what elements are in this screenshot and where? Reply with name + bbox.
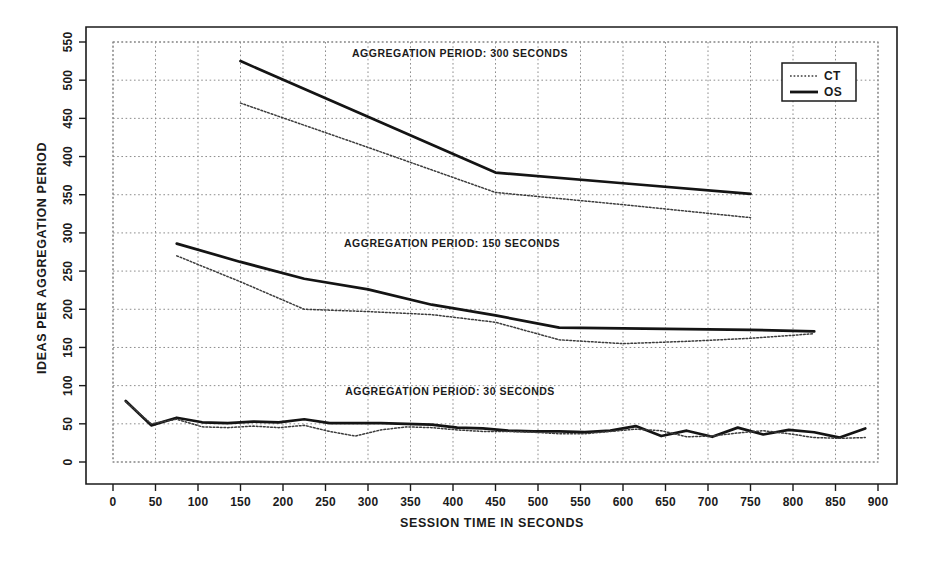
y-tick-label: 0 bbox=[61, 458, 75, 465]
y-tick-label: 200 bbox=[61, 299, 75, 320]
x-tick-label: 200 bbox=[273, 495, 294, 509]
x-tick-label: 250 bbox=[315, 495, 336, 509]
y-tick-label: 400 bbox=[61, 146, 75, 167]
x-tick-label: 500 bbox=[528, 495, 549, 509]
x-tick-labels: 0501001502002503003504004505005506006507… bbox=[110, 495, 889, 509]
x-tick-label: 0 bbox=[110, 495, 117, 509]
annotation-period-30: AGGREGATION PERIOD: 30 SECONDS bbox=[345, 385, 555, 397]
x-tick-label: 600 bbox=[613, 495, 634, 509]
y-tick-label: 350 bbox=[61, 184, 75, 205]
chart-legend[interactable]: CT OS bbox=[782, 63, 856, 101]
x-tick-label: 750 bbox=[740, 495, 761, 509]
x-tick-label: 850 bbox=[825, 495, 846, 509]
grid-lines bbox=[113, 42, 878, 462]
annotation-period-150: AGGREGATION PERIOD: 150 SECONDS bbox=[344, 237, 560, 249]
x-tick-label: 550 bbox=[570, 495, 591, 509]
x-tick-label: 150 bbox=[230, 495, 251, 509]
x-tick-label: 700 bbox=[698, 495, 719, 509]
y-tick-label: 450 bbox=[61, 108, 75, 129]
chart-figure: 0501001502002503003504004505005506006507… bbox=[0, 0, 936, 561]
y-tick-label: 100 bbox=[61, 375, 75, 396]
y-axis-title: IDEAS PER AGGREGATION PERIOD bbox=[35, 142, 49, 374]
y-tick-label: 300 bbox=[61, 222, 75, 243]
y-tick-labels: 050100150200250300350400450500550 bbox=[61, 32, 75, 466]
x-tick-label: 450 bbox=[485, 495, 506, 509]
x-tick-label: 50 bbox=[149, 495, 163, 509]
x-tick-label: 350 bbox=[400, 495, 421, 509]
annotation-period-300: AGGREGATION PERIOD: 300 SECONDS bbox=[352, 47, 568, 59]
y-tick-label: 550 bbox=[61, 32, 75, 53]
x-tick-label: 650 bbox=[655, 495, 676, 509]
x-tick-label: 900 bbox=[868, 495, 889, 509]
y-tick-label: 500 bbox=[61, 70, 75, 91]
x-tick-label: 800 bbox=[783, 495, 804, 509]
axis-frame bbox=[86, 27, 897, 484]
legend-label-os: OS bbox=[824, 85, 842, 99]
line-chart-canvas: 0501001502002503003504004505005506006507… bbox=[0, 0, 936, 561]
x-axis-title: SESSION TIME IN SECONDS bbox=[400, 516, 584, 530]
y-tick-label: 50 bbox=[61, 417, 75, 431]
legend-label-ct: CT bbox=[824, 69, 841, 83]
legend-box bbox=[782, 63, 856, 101]
x-tick-label: 400 bbox=[443, 495, 464, 509]
y-tick-label: 150 bbox=[61, 337, 75, 358]
x-tick-label: 100 bbox=[188, 495, 209, 509]
x-tick-label: 300 bbox=[358, 495, 379, 509]
y-tick-label: 250 bbox=[61, 261, 75, 282]
